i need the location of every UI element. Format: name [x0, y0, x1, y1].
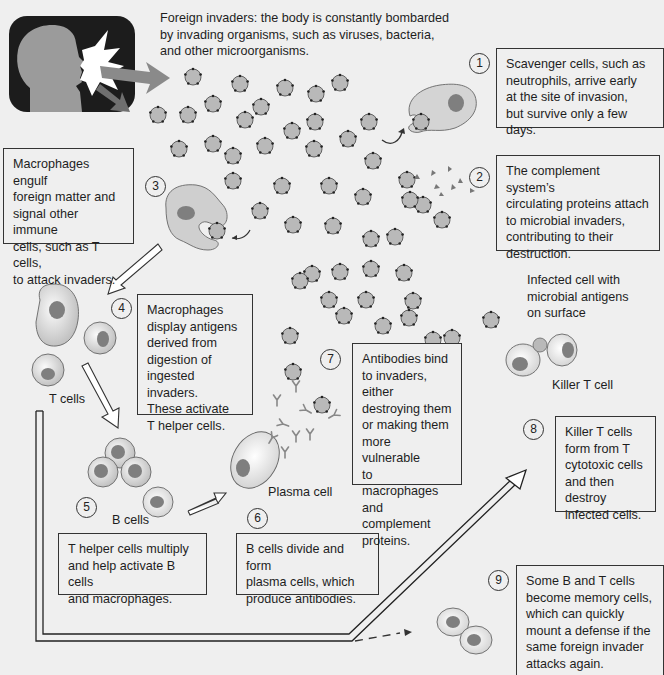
text-line: and help activate B cells — [68, 558, 197, 591]
t-cells-group — [32, 284, 116, 386]
intro-text: Foreign invaders: the body is constantly… — [160, 10, 500, 60]
text-line: Infected cell with — [527, 272, 629, 289]
text-line: Killer T cells — [565, 424, 646, 441]
text-line: T helper cells. — [147, 418, 243, 435]
text-line: to microbial invaders, — [506, 213, 650, 230]
text-line: produce antibodies. — [246, 591, 369, 608]
microbe-icon — [231, 75, 249, 92]
plasma-cell-label: Plasma cell — [268, 484, 332, 500]
microbe-icon — [204, 135, 222, 152]
microbe-icon — [339, 130, 357, 147]
microbe-icon — [224, 172, 242, 189]
text-line: become memory cells, — [526, 590, 654, 607]
text-line: display antigens — [147, 319, 243, 336]
text-line: B cells divide and form — [246, 541, 369, 574]
step-4-description: Macrophages display antigens derived fro… — [137, 294, 253, 415]
text-line: T helper cells multiply — [68, 541, 197, 558]
microbe-icon — [305, 140, 323, 157]
text-line: cytotoxic cells — [565, 457, 646, 474]
microbe-icon — [320, 291, 338, 308]
text-line: foreign matter and — [13, 189, 124, 206]
microbe-icon — [252, 98, 270, 115]
microbe-icon — [306, 113, 324, 130]
person-coughing-icon — [9, 16, 170, 112]
text-line: mount a defense if the — [526, 623, 654, 640]
text-line: more vulnerable — [362, 434, 452, 467]
arrow-4-to-5 — [82, 363, 119, 428]
text-line: plasma cells, which — [246, 574, 369, 591]
text-line: Macrophages — [147, 302, 243, 319]
microbe-icon — [170, 140, 188, 157]
text-line: The complement system’s — [506, 163, 650, 196]
step-number-7: 7 — [320, 349, 341, 370]
microbe-icon — [364, 152, 382, 169]
text-line: Some B and T cells — [526, 573, 654, 590]
microbe-icon — [236, 111, 254, 128]
text-line: on surface — [527, 305, 629, 322]
text-line: ingested invaders. — [147, 368, 243, 401]
step-1-description: Scavenger cells, such as neutrophils, ar… — [496, 48, 664, 128]
b-cells-group — [88, 438, 173, 517]
text-line: Antibodies bind — [362, 351, 452, 368]
microbe-icon — [331, 263, 349, 280]
text-line: derived from — [147, 335, 243, 352]
microbe-icon — [374, 317, 392, 334]
text-line: and complement — [362, 500, 452, 533]
step-7-description: Antibodies bind to invaders, either dest… — [352, 343, 462, 485]
step-number-1: 1 — [469, 53, 490, 74]
step-2-description: The complement system’s circulating prot… — [496, 155, 660, 251]
text-line: These activate — [147, 401, 243, 418]
microbe-icon — [281, 327, 299, 344]
infected-cell-icon — [506, 338, 547, 376]
text-line: which can quickly — [526, 606, 654, 623]
microbe-icon — [204, 95, 222, 112]
microbe-icon — [335, 307, 353, 324]
b-cells-label: B cells — [112, 512, 149, 528]
text-line: infected cells. — [565, 507, 646, 524]
microbe-icon — [354, 188, 372, 205]
text-line: and then destroy — [565, 474, 646, 507]
step-number-4: 4 — [111, 298, 132, 319]
step-number-5: 5 — [76, 497, 97, 518]
microbe-icon — [224, 147, 242, 164]
macrophage-icon — [166, 185, 250, 250]
intro-line: and other microorganisms. — [160, 43, 500, 60]
text-line: form from T — [565, 441, 646, 458]
text-line: to invaders, either — [362, 368, 452, 401]
step-9-description: Some B and T cells become memory cells, … — [516, 565, 664, 675]
infected-cell-label: Infected cell with microbial antigens on… — [527, 272, 629, 322]
memory-cells-icon — [437, 608, 492, 654]
text-line: destroying them — [362, 401, 452, 418]
microbe-icon — [362, 260, 380, 277]
microbe-icon — [357, 291, 375, 308]
step-3-description: Macrophages engulf foreign matter and si… — [3, 148, 134, 244]
microbe-icon — [482, 311, 500, 328]
microbe-icon — [362, 230, 380, 247]
text-line: microbial antigens — [527, 289, 629, 306]
microbe-icon — [307, 85, 325, 102]
microbe-icon — [395, 264, 413, 281]
microbe-icon — [149, 106, 167, 123]
step-number-2: 2 — [469, 167, 490, 188]
text-line: proteins. — [362, 533, 452, 550]
text-line: Macrophages engulf — [13, 156, 124, 189]
microbe-icon — [251, 202, 269, 219]
microbe-icon — [404, 292, 422, 309]
text-line: neutrophils, arrive early — [506, 73, 654, 90]
microbe-icon — [320, 177, 338, 194]
text-line: digestion of — [147, 352, 243, 369]
text-line: circulating proteins attach — [506, 196, 650, 213]
microbe-icon — [283, 122, 301, 139]
microbe-icon — [256, 137, 274, 154]
text-line: signal other immune — [13, 206, 124, 239]
microbe-icon — [273, 177, 291, 194]
microbe-icon — [284, 363, 302, 380]
step-8-description: Killer T cells form from T cytotoxic cel… — [555, 416, 656, 512]
text-line: destruction. — [506, 246, 650, 263]
text-line: attacks again. — [526, 656, 654, 673]
killer-t-cell-icon — [547, 334, 577, 366]
text-line: and macrophages. — [68, 591, 197, 608]
arrow-5-to-6 — [188, 493, 226, 515]
t-cells-label: T cells — [49, 391, 85, 407]
text-line: same foreign invader — [526, 639, 654, 656]
